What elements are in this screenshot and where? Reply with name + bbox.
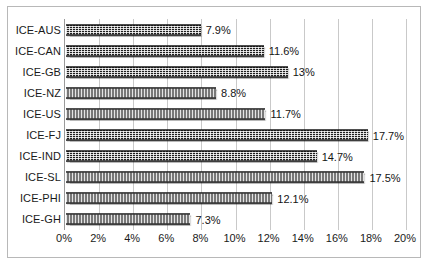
- category-label-ice-aus: ICE-AUS: [16, 24, 61, 36]
- bar-group: 11.6%: [66, 45, 299, 56]
- gridline-20pct: [406, 19, 407, 230]
- bar-group: 17.5%: [66, 172, 401, 183]
- x-tick-label: 16%: [326, 232, 348, 244]
- category-label-ice-nz: ICE-NZ: [24, 87, 61, 99]
- category-label-ice-ind: ICE-IND: [19, 150, 61, 162]
- bar-group: 7.3%: [66, 214, 221, 225]
- value-label-ice-aus: 7.9%: [206, 24, 231, 36]
- category-label-ice-gb: ICE-GB: [23, 66, 62, 78]
- x-tick-label: 10%: [223, 232, 245, 244]
- bar-group: 8.8%: [66, 87, 246, 98]
- bar-group: 7.9%: [66, 24, 231, 35]
- bar-ice-gb: [66, 66, 288, 77]
- value-label-ice-sl: 17.5%: [369, 171, 400, 183]
- bar-ice-us: [66, 108, 265, 119]
- value-label-ice-ind: 14.7%: [322, 150, 353, 162]
- bar-ice-nz: [66, 87, 216, 98]
- x-tick-label: 8%: [192, 232, 208, 244]
- value-label-ice-us: 11.7%: [270, 108, 300, 120]
- x-tick-label: 14%: [292, 232, 314, 244]
- bar-row: ICE-FJ17.7%: [65, 125, 406, 146]
- bar-row: ICE-GB13%: [65, 61, 406, 82]
- bar-ice-gh: [66, 214, 190, 225]
- bar-group: 11.7%: [66, 108, 301, 119]
- x-tick-label: 12%: [258, 232, 280, 244]
- bar-ice-fj: [66, 130, 368, 141]
- value-label-ice-gh: 7.3%: [195, 213, 220, 225]
- x-tick-label: 2%: [90, 232, 106, 244]
- x-tick-label: 20%: [394, 232, 416, 244]
- x-tick-label: 0%: [56, 232, 72, 244]
- bar-row: ICE-PHI12.1%: [65, 188, 406, 209]
- bar-group: 14.7%: [66, 151, 353, 162]
- category-label-ice-phi: ICE-PHI: [20, 192, 61, 204]
- bar-row: ICE-CAN11.6%: [65, 40, 406, 61]
- chart-frame: ICE-AUS7.9%ICE-CAN11.6%ICE-GB13%ICE-NZ8.…: [7, 6, 421, 258]
- x-tick-label: 18%: [360, 232, 382, 244]
- bar-group: 12.1%: [66, 193, 309, 204]
- bar-row: ICE-AUS7.9%: [65, 19, 406, 40]
- value-label-ice-gb: 13%: [293, 66, 315, 78]
- bar-group: 17.7%: [66, 130, 404, 141]
- x-axis: 0%2%4%6%8%10%12%14%16%18%20%: [64, 230, 406, 250]
- category-label-ice-us: ICE-US: [23, 108, 61, 120]
- x-tick-label: 4%: [124, 232, 140, 244]
- bar-group: 13%: [66, 66, 315, 77]
- bar-row: ICE-GH7.3%: [65, 209, 406, 230]
- category-label-ice-fj: ICE-FJ: [26, 129, 61, 141]
- bar-row: ICE-IND14.7%: [65, 146, 406, 167]
- category-label-ice-can: ICE-CAN: [15, 45, 61, 57]
- bar-ice-aus: [66, 24, 201, 35]
- x-tick-label: 6%: [158, 232, 174, 244]
- bar-row: ICE-SL17.5%: [65, 167, 406, 188]
- value-label-ice-phi: 12.1%: [277, 192, 308, 204]
- bar-row: ICE-NZ8.8%: [65, 82, 406, 103]
- bar-ice-sl: [66, 172, 364, 183]
- bar-row: ICE-US11.7%: [65, 103, 406, 124]
- category-label-ice-sl: ICE-SL: [25, 171, 61, 183]
- value-label-ice-fj: 17.7%: [373, 129, 404, 141]
- value-label-ice-can: 11.6%: [269, 45, 299, 57]
- bar-ice-ind: [66, 151, 317, 162]
- category-label-ice-gh: ICE-GH: [22, 213, 61, 225]
- plot-area: ICE-AUS7.9%ICE-CAN11.6%ICE-GB13%ICE-NZ8.…: [64, 19, 406, 230]
- bar-ice-phi: [66, 193, 272, 204]
- value-label-ice-nz: 8.8%: [221, 87, 246, 99]
- bar-ice-can: [66, 45, 264, 56]
